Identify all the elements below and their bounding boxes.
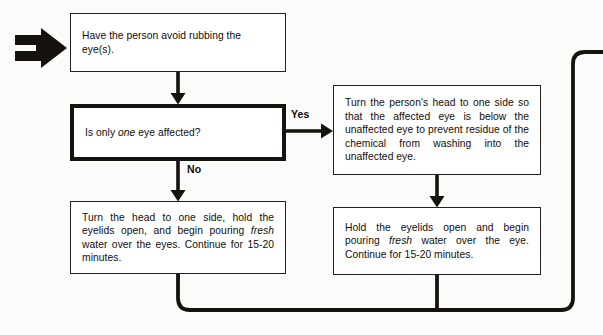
decision-text-before: Is only xyxy=(85,127,118,138)
both-eyes-text-emphasis: fresh xyxy=(251,225,274,236)
both-eyes-text-before: Turn the head to one side, hold the eyel… xyxy=(82,212,274,236)
decision-text-after: eye affected? xyxy=(135,127,200,138)
node-both-eyes-text: Turn the head to one side, hold the eyel… xyxy=(71,211,285,265)
decision-text-emphasis: one xyxy=(118,127,135,138)
flowchart-page: Have the person avoid rubbing the eye(s)… xyxy=(0,0,603,335)
edge-label-yes: Yes xyxy=(291,108,309,120)
node-advice-text: Have the person avoid rubbing the eye(s)… xyxy=(71,29,285,56)
connector-decision-no xyxy=(171,161,186,202)
connector-decision-yes xyxy=(286,124,333,139)
node-turn-head-affected-eye-below: Turn the person's head to one side so th… xyxy=(333,85,541,175)
node-decision-text: Is only one eye affected? xyxy=(74,126,282,139)
node-have-person-avoid-rubbing: Have the person avoid rubbing the eye(s)… xyxy=(70,13,286,72)
entry-block-arrow-icon xyxy=(15,28,67,68)
node-hold-eyelids-open-one-eye: Hold the eyelids open and begin pouring … xyxy=(333,207,541,275)
both-eyes-text-after: water over the eyes. Continue for 15-20 … xyxy=(82,239,274,263)
connector-turnhead-to-holdlids xyxy=(430,175,445,208)
edge-label-no: No xyxy=(187,163,201,175)
hold-lids-text-emphasis: fresh xyxy=(389,235,412,246)
node-is-only-one-eye-affected: Is only one eye affected? xyxy=(70,104,286,161)
node-hold-lids-text: Hold the eyelids open and begin pouring … xyxy=(334,221,540,261)
node-turn-head-text: Turn the person's head to one side so th… xyxy=(334,96,540,163)
connector-advice-to-decision xyxy=(171,72,186,105)
node-turn-head-both-eyes: Turn the head to one side, hold the eyel… xyxy=(70,201,286,274)
